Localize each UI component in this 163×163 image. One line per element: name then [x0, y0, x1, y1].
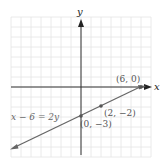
equation-label: x − 6 = 2y — [11, 112, 60, 122]
point-label-6-0: (6, 0) — [116, 74, 140, 84]
coordinate-graph: x y (6, 0) (2, −2) (0, −3) x − 6 = 2y — [0, 0, 163, 163]
x-axis-label: x — [154, 81, 160, 92]
point-label-2-neg2: (2, −2) — [104, 108, 136, 118]
point-6-0 — [139, 85, 143, 89]
point-label-0-neg3: (0, −3) — [80, 119, 112, 129]
point-2-neg2 — [99, 104, 103, 108]
y-axis-label: y — [76, 6, 83, 17]
y-axis-arrow-icon — [78, 19, 84, 27]
point-0-neg3 — [79, 114, 83, 118]
